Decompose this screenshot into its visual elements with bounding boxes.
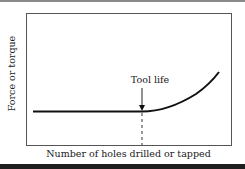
chart-figure: [0, 0, 245, 169]
arrow-head-icon: [139, 105, 145, 111]
y-axis-label: Force or torque: [3, 28, 21, 118]
y-axis-label-text: Force or torque: [7, 35, 18, 110]
x-axis-label: Number of holes drilled or tapped: [26, 148, 231, 159]
bottom-rule: [0, 164, 245, 169]
tool-life-annotation: Tool life: [125, 74, 175, 85]
